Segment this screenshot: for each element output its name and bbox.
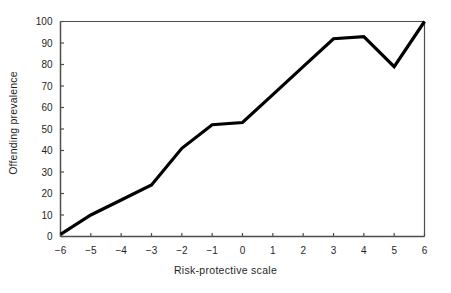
x-tick-label: −3 [146, 245, 158, 256]
x-axis-tick-labels: −6−5−4−3−2−10123456 [55, 245, 428, 256]
y-tick-label: 100 [36, 16, 53, 27]
y-axis-label-container: Offending prevalence [0, 0, 26, 245]
x-tick-label: 5 [391, 245, 397, 256]
y-tick-label: 0 [47, 231, 53, 242]
x-tick-label: 4 [361, 245, 367, 256]
y-tick-label: 80 [41, 59, 53, 70]
y-axis-tick-labels: 0102030405060708090100 [36, 16, 53, 242]
y-tick-label: 90 [41, 38, 53, 49]
x-tick-label: 0 [240, 245, 246, 256]
x-tick-label: −1 [206, 245, 218, 256]
y-tick-label: 50 [41, 124, 53, 135]
y-tick-label: 20 [41, 188, 53, 199]
y-tick-label: 60 [41, 102, 53, 113]
x-tick-label: 2 [300, 245, 306, 256]
y-tick-label: 70 [41, 81, 53, 92]
x-tick-label: −4 [115, 245, 127, 256]
x-tick-label: −2 [176, 245, 188, 256]
chart-figure: Offending prevalence 0102030405060708090… [0, 0, 451, 293]
x-tick-label: 6 [422, 245, 428, 256]
x-tick-label: −5 [85, 245, 97, 256]
y-tick-label: 30 [41, 167, 53, 178]
x-tick-label: 1 [270, 245, 276, 256]
data-series-line [61, 22, 425, 235]
x-axis-label: Risk-protective scale [0, 264, 451, 276]
line-chart-plot: 0102030405060708090100 −6−5−4−3−2−101234… [0, 0, 451, 293]
y-tick-label: 40 [41, 145, 53, 156]
x-tick-label: −6 [55, 245, 67, 256]
x-tick-label: 3 [331, 245, 337, 256]
y-axis-label: Offending prevalence [7, 71, 19, 175]
y-tick-label: 10 [41, 210, 53, 221]
